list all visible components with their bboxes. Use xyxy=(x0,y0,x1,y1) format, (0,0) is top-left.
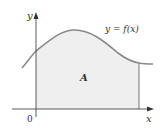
curve-equation-label: y = f(x) xyxy=(104,24,139,34)
y-axis-label: y xyxy=(26,10,33,21)
region-area-label: A xyxy=(79,72,88,83)
x-axis-label: x xyxy=(146,113,152,124)
x-axis-arrow-icon xyxy=(147,107,154,112)
area-under-curve-diagram: y x 0 A y = f(x) xyxy=(0,0,162,134)
origin-label: 0 xyxy=(27,114,33,124)
diagram-canvas: y x 0 A y = f(x) xyxy=(0,0,162,134)
shaded-area-region xyxy=(36,30,139,109)
y-axis-arrow-icon xyxy=(34,12,39,19)
